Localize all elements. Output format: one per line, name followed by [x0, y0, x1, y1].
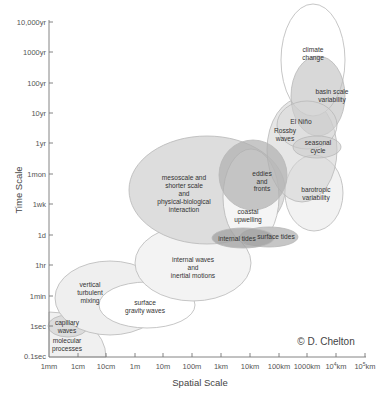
diagram-canvas: climatechange basin scalevariability El …: [0, 0, 381, 395]
label-surface-tides: surface tides: [257, 233, 295, 240]
svg-text:molecularprocesses: molecularprocesses: [52, 337, 83, 353]
label-coastal-upwelling: coastal: [238, 208, 259, 215]
x-tick-labels: 1mm 1cm 10cm 1m 10m 100m 1km 10km 100km …: [41, 361, 376, 371]
svg-text:coastalupwelling: coastalupwelling: [234, 208, 262, 224]
svg-text:capillarywaves: capillarywaves: [55, 319, 80, 334]
svg-text:10yr: 10yr: [31, 109, 46, 118]
ocean-scales-diagram: climatechange basin scalevariability El …: [0, 0, 381, 395]
svg-text:10m: 10m: [156, 362, 171, 371]
svg-text:1m: 1m: [130, 362, 140, 371]
label-capillary-waves: capillary: [55, 319, 80, 327]
svg-text:1mon: 1mon: [27, 170, 46, 179]
svg-text:1cm: 1cm: [71, 362, 85, 371]
svg-text:104km: 104km: [325, 361, 346, 371]
svg-text:10km: 10km: [241, 362, 259, 371]
svg-text:0.1sec: 0.1sec: [24, 352, 46, 361]
label-basin-scale: basin scale: [316, 88, 349, 95]
y-axis-title: Time Scale: [13, 166, 24, 213]
svg-text:1000yr: 1000yr: [23, 48, 46, 57]
svg-text:basin scalevariability: basin scalevariability: [316, 88, 349, 104]
svg-text:1km: 1km: [214, 362, 228, 371]
svg-text:1hr: 1hr: [35, 261, 46, 270]
svg-text:surface tides: surface tides: [257, 233, 295, 240]
svg-text:100km: 100km: [268, 362, 291, 371]
label-seasonal-cycle: seasonal: [305, 139, 332, 146]
svg-text:El Niño: El Niño: [290, 118, 312, 125]
label-eddies-fronts: eddies: [252, 170, 272, 177]
x-axis-title: Spatial Scale: [172, 377, 227, 388]
label-molecular-processes: molecular: [53, 337, 82, 344]
svg-text:1mm: 1mm: [41, 362, 58, 371]
label-climate-change: climate: [303, 46, 324, 53]
svg-text:1yr: 1yr: [36, 139, 47, 148]
svg-text:105km: 105km: [354, 361, 375, 371]
svg-text:1min: 1min: [30, 292, 46, 301]
svg-text:verticalturbulentmixing: verticalturbulentmixing: [77, 281, 103, 305]
label-mesoscale: mesoscale and: [162, 174, 207, 181]
svg-text:1000km: 1000km: [294, 362, 321, 371]
credit-annotation: © D. Chelton: [297, 336, 354, 347]
label-barotropic-variability: barotropic: [301, 186, 331, 194]
label-vertical-turbulent-mixing: vertical: [80, 281, 101, 288]
svg-text:10,000yr: 10,000yr: [17, 18, 47, 27]
svg-text:1sec: 1sec: [30, 322, 46, 331]
label-internal-waves: internal waves: [172, 256, 215, 263]
svg-text:1wk: 1wk: [33, 200, 47, 209]
label-surface-gravity-waves: surface: [134, 299, 156, 306]
svg-text:climatechange: climatechange: [302, 46, 324, 62]
svg-text:100m: 100m: [183, 362, 202, 371]
label-internal-tides: internal tides: [218, 235, 256, 242]
svg-text:Rossbywaves: Rossbywaves: [274, 127, 297, 142]
svg-text:internal tides: internal tides: [218, 235, 256, 242]
svg-text:barotropicvariability: barotropicvariability: [301, 186, 331, 202]
svg-text:100yr: 100yr: [27, 79, 46, 88]
svg-text:10cm: 10cm: [97, 362, 115, 371]
svg-text:1d: 1d: [38, 231, 46, 240]
label-rossby-waves: Rossby: [274, 127, 297, 135]
label-el-nino: El Niño: [290, 118, 312, 125]
